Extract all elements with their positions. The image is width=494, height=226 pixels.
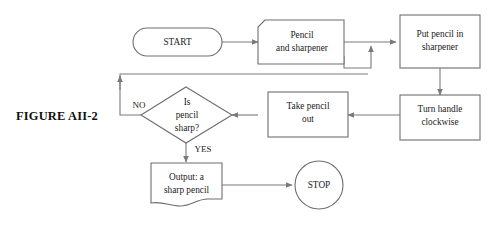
- input-pencil-line1: Pencil: [290, 30, 314, 40]
- decision-line1: Is: [184, 97, 191, 107]
- start-label: START: [163, 37, 191, 47]
- node-take-pencil: Take pencil out: [268, 92, 348, 137]
- edge-retry-loop-to-put-pencil: [344, 46, 371, 68]
- turn-handle-line1: Turn handle: [418, 104, 463, 114]
- flowchart-canvas: FIGURE AII-2 START Pencil and sharpener …: [0, 0, 494, 226]
- flowchart-figure: FIGURE AII-2 START Pencil and sharpener …: [0, 0, 494, 226]
- input-pencil-line2: and sharpener: [276, 43, 329, 53]
- input-pencil-shape: [258, 20, 344, 64]
- decision-line3: sharp?: [175, 123, 199, 133]
- figure-caption: FIGURE AII-2: [16, 109, 98, 123]
- edge-label-no: NO: [133, 100, 146, 110]
- node-turn-handle: Turn handle clockwise: [400, 95, 480, 140]
- put-pencil-line2: sharpener: [422, 42, 459, 52]
- node-decision: Is pencil sharp?: [141, 87, 232, 143]
- edge-label-yes: YES: [194, 144, 211, 154]
- take-pencil-line1: Take pencil: [287, 101, 330, 111]
- stop-label: STOP: [308, 180, 331, 190]
- output-pencil-line2: sharp pencil: [164, 185, 210, 195]
- node-input-pencil: Pencil and sharpener: [258, 20, 344, 64]
- put-pencil-line1: Put pencil in: [417, 29, 464, 39]
- output-pencil-line1: Output: a: [169, 172, 204, 182]
- take-pencil-line2: out: [302, 114, 314, 124]
- node-output-pencil: Output: a sharp pencil: [151, 163, 222, 206]
- node-put-pencil: Put pencil in sharpener: [400, 15, 480, 68]
- node-stop: STOP: [295, 161, 343, 209]
- decision-line2: pencil: [176, 110, 199, 120]
- turn-handle-line2: clockwise: [421, 117, 458, 127]
- node-start: START: [133, 28, 222, 56]
